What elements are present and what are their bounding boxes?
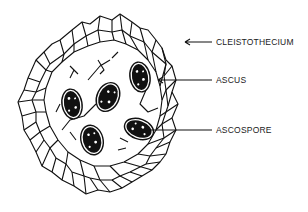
ascus-arrow — [158, 77, 212, 83]
label-cleistothecium: CLEISTOTHECIUM — [216, 37, 294, 47]
ascus — [60, 87, 85, 120]
ascus — [92, 79, 125, 115]
label-ascospore: ASCOSPORE — [216, 125, 272, 135]
ascus — [128, 60, 153, 93]
cleistothecium-diagram — [0, 0, 308, 212]
label-ascus: ASCUS — [216, 75, 246, 85]
cleistothecium-arrow — [185, 39, 212, 45]
asci — [60, 60, 157, 157]
ascus — [77, 123, 106, 158]
